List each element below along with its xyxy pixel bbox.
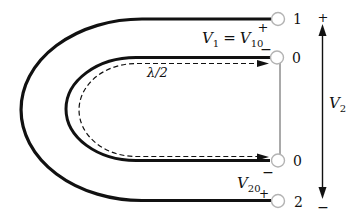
- v2-minus-sign: −: [317, 199, 329, 215]
- terminal-label-2: 2: [294, 194, 303, 210]
- v2-arrowhead-down-icon: [319, 187, 327, 199]
- v2-plus-sign: +: [318, 10, 329, 25]
- diagram-canvas: 1 0 0 2 V1=V10 + − λ/2 V2 + − − V20 +: [0, 0, 364, 219]
- v2-label: V2: [329, 94, 346, 114]
- dashed-arrowhead-top-icon: [257, 60, 269, 67]
- v20-plus-sign: +: [259, 187, 269, 201]
- terminal-label-1: 1: [293, 11, 302, 27]
- lambda-half-label: λ/2: [146, 65, 168, 80]
- v1-minus-sign: −: [260, 41, 272, 57]
- v2-arrowhead-up-icon: [319, 24, 327, 36]
- lambda-half-dashed-path: [79, 64, 262, 157]
- terminal-label-0-top: 0: [292, 50, 301, 66]
- balun-diagram: 1 0 0 2 V1=V10 + − λ/2 V2 + − − V20 +: [0, 0, 364, 219]
- v20-label: V20: [237, 174, 261, 194]
- terminal-0-bottom-minus-sign: −: [262, 164, 274, 180]
- v1-equation-label: V1=V10: [202, 29, 263, 49]
- terminal-circle-0-top: [271, 51, 284, 64]
- terminal-label-0-bottom: 0: [293, 153, 302, 169]
- inner-conductor-u-path: [66, 58, 270, 161]
- v1-plus-sign: +: [258, 20, 269, 35]
- terminal-circle-1: [272, 13, 285, 26]
- terminal-circle-2: [272, 195, 285, 208]
